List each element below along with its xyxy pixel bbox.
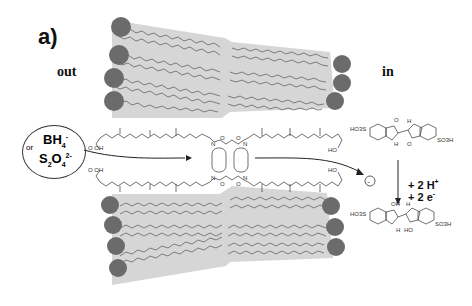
svg-text:H: H	[396, 227, 400, 233]
lipid-head	[104, 91, 124, 111]
svg-text:O: O	[220, 181, 225, 187]
bottom-membrane-leaflet	[101, 186, 345, 285]
borohydride-label: BH4-	[43, 132, 68, 149]
lipid-head	[101, 196, 119, 214]
svg-text:HO: HO	[328, 167, 337, 173]
svg-text:N: N	[243, 141, 247, 147]
lipid-head	[109, 259, 127, 277]
lipid-head	[109, 45, 129, 65]
outgoing-arrow	[255, 158, 360, 172]
svg-text:HO: HO	[328, 147, 337, 153]
oxidized-indigo-structure	[370, 124, 436, 140]
svg-text:H: H	[407, 118, 411, 124]
svg-text:N: N	[211, 175, 215, 181]
top-membrane-leaflet	[104, 17, 351, 118]
svg-text:N: N	[211, 141, 215, 147]
inside-label: in	[382, 64, 394, 80]
reductant-arrow	[84, 150, 185, 158]
outside-label: out	[57, 64, 76, 80]
dithionite-label: S2O42-	[39, 151, 72, 168]
svg-text:HO3S: HO3S	[350, 211, 366, 217]
svg-text:SO3H: SO3H	[437, 137, 453, 143]
svg-text:HO: HO	[404, 227, 413, 233]
reduced-leuco-indigo-structure	[370, 208, 434, 224]
panel-label: a)	[38, 24, 58, 50]
svg-text:O OH: O OH	[88, 167, 103, 173]
svg-text:O OH: O OH	[88, 145, 103, 151]
electron-label: + 2 e-	[408, 190, 435, 203]
svg-text:O: O	[236, 135, 241, 141]
lipid-head	[333, 55, 351, 73]
svg-text:O: O	[220, 135, 225, 141]
proton-label: + 2 H+	[408, 178, 439, 191]
svg-text:O: O	[236, 181, 241, 187]
or-label: or	[26, 143, 33, 152]
lipid-head	[104, 216, 122, 234]
lipid-head	[333, 74, 351, 92]
lipid-head	[326, 218, 344, 236]
lipid-head	[322, 197, 340, 215]
lipid-head	[327, 238, 345, 256]
lipid-head	[326, 92, 344, 110]
lipid-head	[104, 68, 124, 88]
reductant-ellipse: BH4- or S2O42-	[22, 125, 86, 179]
svg-text:H: H	[394, 141, 398, 147]
lipid-head	[107, 237, 125, 255]
svg-text:HO3S: HO3S	[350, 126, 366, 132]
svg-text:O: O	[407, 141, 412, 147]
svg-text:OH: OH	[391, 201, 400, 207]
svg-text:SO3H: SO3H	[435, 221, 451, 227]
charge-marker: -	[365, 176, 375, 186]
svg-text:O: O	[394, 117, 399, 123]
svg-text:-: -	[368, 177, 371, 186]
reduced-indigo-labels: HO3S SO3H OH HO H H	[350, 201, 451, 233]
channel-atom-labels: O OH O OH HO HO N N N N O O O O	[88, 135, 337, 187]
svg-text:N: N	[243, 175, 247, 181]
carotenoid-channel	[96, 128, 342, 192]
lipid-head	[111, 17, 131, 37]
